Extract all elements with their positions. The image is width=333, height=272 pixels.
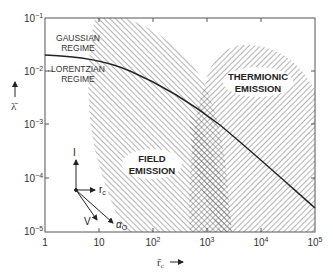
thermionic-emission-label: THERMIONIC — [228, 71, 288, 82]
svg-text:1: 1 — [42, 237, 48, 248]
svg-text:λ̄: λ̄ — [11, 100, 18, 112]
svg-text:rc: rc — [99, 184, 106, 196]
svg-text:10−3: 10−3 — [24, 118, 43, 130]
y-axis-title: λ̄ — [11, 82, 18, 112]
svg-text:V: V — [84, 216, 91, 227]
svg-text:r̄c: r̄c — [157, 256, 164, 270]
svg-text:10−5: 10−5 — [24, 225, 43, 237]
field-emission-label: FIELD — [138, 153, 166, 164]
svg-text:10: 10 — [93, 237, 105, 248]
svg-text:I: I — [73, 147, 76, 158]
svg-text:EMISSION: EMISSION — [129, 165, 176, 176]
svg-text:102: 102 — [145, 236, 160, 248]
svg-text:REGIME: REGIME — [61, 74, 95, 84]
x-axis-title: r̄c — [157, 256, 183, 270]
svg-text:10−4: 10−4 — [24, 172, 43, 184]
chart-figure: 10−1 10−2 10−3 10−4 10−5 1 10 102 103 10… — [0, 0, 333, 272]
plot-regions — [88, 18, 315, 232]
svg-text:REGIME: REGIME — [61, 43, 95, 53]
svg-text:103: 103 — [199, 236, 214, 248]
lorentzian-label: LORENTZIAN — [51, 64, 105, 74]
svg-text:EMISSION: EMISSION — [235, 83, 282, 94]
arrow-down-right-icon — [76, 190, 113, 223]
x-tick-labels: 1 10 102 103 104 105 — [42, 236, 322, 248]
svg-text:10−2: 10−2 — [24, 65, 43, 77]
gaussian-label: GAUSSIAN — [56, 33, 100, 43]
svg-text:10−1: 10−1 — [24, 12, 43, 24]
svg-text:104: 104 — [253, 236, 268, 248]
y-tick-labels: 10−1 10−2 10−3 10−4 10−5 — [24, 12, 43, 237]
svg-text:105: 105 — [307, 236, 322, 248]
